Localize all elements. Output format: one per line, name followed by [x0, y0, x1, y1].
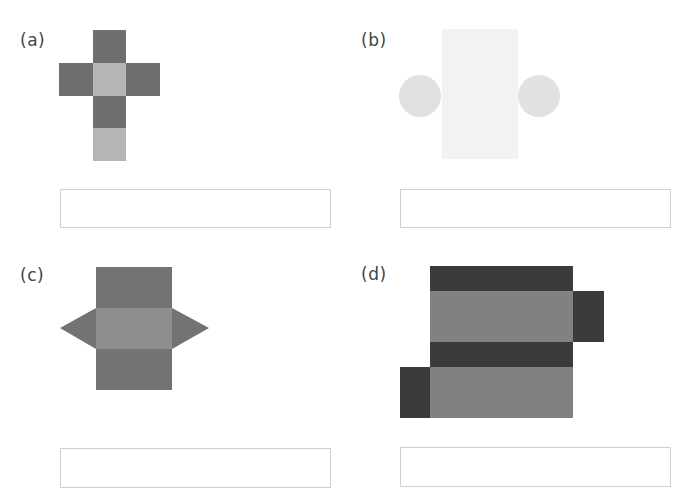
net-a — [59, 30, 160, 161]
net-a-face-bottom — [93, 128, 126, 161]
net-d-band-2 — [430, 291, 573, 342]
net-a-face-lower — [93, 96, 126, 128]
net-b-base-right — [518, 75, 560, 117]
net-a-face-center — [93, 63, 126, 96]
nets-figure — [0, 0, 689, 501]
net-b — [399, 29, 560, 159]
answer-box-a[interactable] — [60, 189, 331, 228]
net-d-band-3 — [430, 342, 573, 367]
net-d-side-left — [400, 367, 430, 418]
net-a-face-top — [93, 30, 126, 63]
net-a-face-right — [126, 63, 160, 96]
net-c-face-top — [96, 267, 172, 308]
answer-box-d[interactable] — [400, 447, 671, 487]
net-c-triangle-left — [60, 308, 96, 349]
net-c-triangle-right — [172, 308, 209, 349]
answer-box-c[interactable] — [60, 448, 331, 488]
net-c-face-middle — [96, 308, 172, 349]
net-c-face-bottom — [96, 349, 172, 390]
answer-box-b[interactable] — [400, 189, 671, 228]
net-d — [400, 266, 604, 418]
net-c — [60, 267, 209, 390]
net-b-lateral-rect — [442, 29, 518, 159]
net-a-face-left — [59, 63, 93, 96]
net-d-side-right — [573, 291, 604, 342]
net-d-band-4 — [430, 367, 573, 418]
net-b-base-left — [399, 75, 441, 117]
net-d-band-1 — [430, 266, 573, 291]
